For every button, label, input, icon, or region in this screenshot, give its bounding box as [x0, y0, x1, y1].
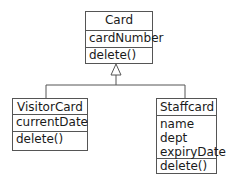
class-card-attributes: cardNumber — [86, 30, 152, 47]
class-card-name: Card — [86, 12, 152, 30]
class-card-methods: delete() — [86, 47, 152, 63]
class-staffcard-name: Staffcard — [157, 99, 216, 115]
attribute: cardNumber — [89, 31, 149, 45]
class-card: Card cardNumber delete() — [85, 11, 153, 64]
class-staffcard: Staffcard name dept expiryDate delete() — [156, 98, 217, 174]
class-visitorcard: VisitorCard currentDate delete() — [12, 98, 88, 151]
class-staffcard-methods: delete() — [157, 158, 216, 173]
class-staffcard-attributes: name dept expiryDate — [157, 115, 216, 158]
method: delete() — [89, 48, 149, 62]
class-visitorcard-methods: delete() — [13, 131, 87, 150]
attribute: name — [160, 117, 213, 131]
attribute: currentDate — [16, 115, 84, 129]
class-visitorcard-name: VisitorCard — [13, 99, 87, 114]
method: delete() — [160, 159, 213, 173]
method: delete() — [16, 132, 84, 146]
attribute: dept — [160, 131, 213, 145]
class-visitorcard-attributes: currentDate — [13, 114, 87, 131]
generalization-arrow-icon — [111, 64, 121, 75]
attribute: expiryDate — [160, 145, 213, 159]
